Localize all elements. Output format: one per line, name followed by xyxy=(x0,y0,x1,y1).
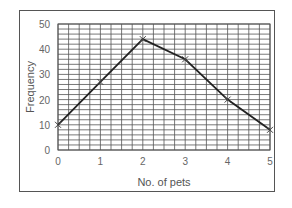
x-tick-label: 0 xyxy=(55,156,61,167)
y-tick-label: 10 xyxy=(39,120,51,131)
y-axis-title: Frequency xyxy=(24,61,36,113)
y-tick-label: 30 xyxy=(39,69,51,80)
x-tick-label: 4 xyxy=(225,156,231,167)
y-tick-label: 40 xyxy=(39,44,51,55)
y-tick-label: 50 xyxy=(39,19,51,30)
x-axis-ticks: 012345 xyxy=(55,156,273,167)
y-tick-label: 0 xyxy=(44,145,50,156)
x-tick-label: 2 xyxy=(140,156,146,167)
y-tick-label: 20 xyxy=(39,95,51,106)
x-axis-title: No. of pets xyxy=(137,176,191,188)
x-tick-label: 1 xyxy=(98,156,104,167)
chart-grid xyxy=(58,24,270,150)
line-chart: 01020304050 012345 Frequency No. of pets xyxy=(0,0,292,208)
x-tick-label: 3 xyxy=(182,156,188,167)
x-tick-label: 5 xyxy=(267,156,273,167)
y-axis-ticks: 01020304050 xyxy=(39,19,51,156)
